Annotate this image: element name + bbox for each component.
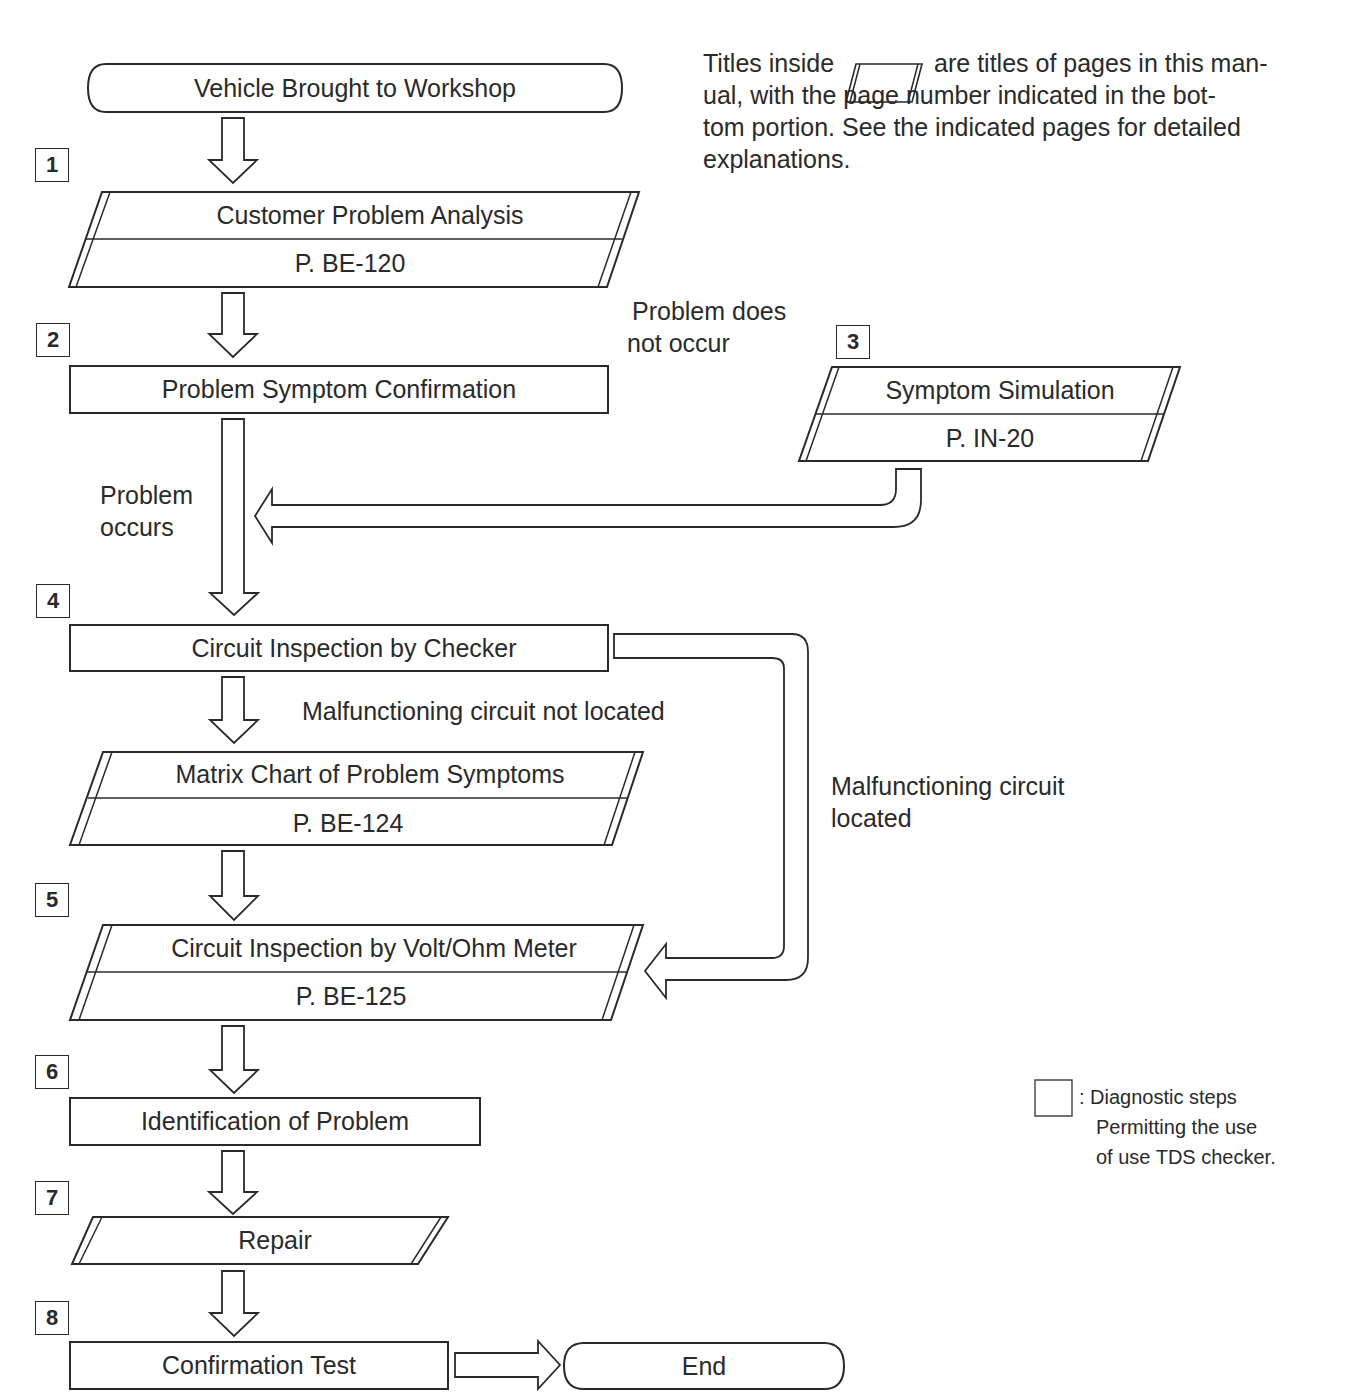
step-number-3: 3 (836, 325, 870, 359)
arrow-return-from-simulation (255, 469, 921, 543)
arrow-down-2 (209, 293, 257, 357)
branch-label-located-line1: Malfunctioning circuit (831, 770, 1064, 802)
arrow-down-4 (210, 419, 258, 615)
step-3-title: Symptom Simulation (840, 375, 1160, 405)
step-6-title: Identification of Problem (70, 1106, 480, 1136)
arrow-down-1 (209, 118, 257, 183)
step-1-title: Customer Problem Analysis (110, 200, 630, 230)
square-box-icon (1035, 1080, 1072, 1116)
branch-label-occurs-line2: occurs (100, 511, 193, 543)
step-number-2: 2 (36, 323, 70, 357)
start-label: Vehicle Brought to Workshop (88, 73, 622, 103)
arrow-down-matrix (210, 677, 258, 743)
step-1-page: P. BE-120 (90, 248, 610, 278)
step-8-title: Confirmation Test (70, 1350, 448, 1380)
note-line3: tom portion. See the indicated pages for… (703, 111, 1343, 143)
matrix-chart-page: P. BE-124 (88, 808, 608, 838)
matrix-chart-title: Matrix Chart of Problem Symptoms (110, 759, 630, 789)
arrow-right-end (455, 1341, 560, 1389)
note-line2: ual, with the page number indicated in t… (703, 79, 1343, 111)
step-number-6: 6 (35, 1055, 69, 1089)
arrow-down-8 (210, 1271, 258, 1336)
step-number-1: 1 (35, 148, 69, 182)
branch-label-occurs: Problem occurs (100, 479, 193, 543)
step-number-5: 5 (35, 883, 69, 917)
arrow-circuit-located (614, 634, 808, 998)
legend-line3: of use TDS checker. (1096, 1144, 1276, 1171)
branch-label-located-line2: located (831, 802, 1064, 834)
step-number-4: 4 (36, 584, 70, 618)
note-line4: explanations. (703, 143, 1343, 175)
branch-label-not-occur-line1: Problem does (627, 295, 786, 327)
note-prefix: Titles inside (703, 49, 834, 77)
branch-label-located: Malfunctioning circuit located (831, 770, 1064, 834)
step-number-8: 8 (35, 1301, 69, 1335)
legend-line1: : Diagnostic steps (1079, 1084, 1237, 1111)
legend-line2: Permitting the use (1096, 1114, 1257, 1141)
end-label: End (564, 1351, 844, 1381)
step-5-title: Circuit Inspection by Volt/Ohm Meter (108, 933, 640, 963)
step-3-page: P. IN-20 (830, 423, 1150, 453)
note-line1-rest: are titles of pages in this man- (934, 49, 1268, 77)
step-7-title: Repair (90, 1225, 460, 1255)
branch-label-occurs-line1: Problem (100, 479, 193, 511)
step-2-title: Problem Symptom Confirmation (70, 374, 608, 404)
step-4-title: Circuit Inspection by Checker (70, 633, 638, 663)
arrow-down-6 (210, 1026, 258, 1093)
explanation-note: Titles insideare titles of pages in this… (703, 47, 1343, 175)
step-5-page: P. BE-125 (85, 981, 617, 1011)
branch-label-not-occur-line2: not occur (627, 327, 786, 359)
step-number-7: 7 (35, 1181, 69, 1215)
branch-label-not-located: Malfunctioning circuit not located (302, 696, 665, 726)
arrow-down-5 (210, 851, 258, 920)
arrow-down-7 (209, 1151, 257, 1214)
branch-label-not-occur: Problem does not occur (627, 295, 786, 359)
